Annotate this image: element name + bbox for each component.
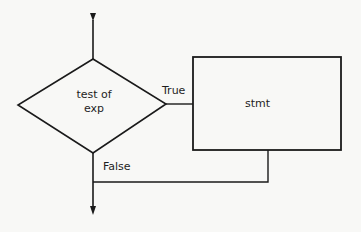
true-label: True <box>162 84 185 97</box>
decision-label: test of exp <box>58 88 130 116</box>
flowchart-canvas: test of exp True stmt False <box>0 0 361 232</box>
entry-arrow <box>90 13 96 59</box>
decision-label-line1: test of <box>58 88 130 102</box>
decision-label-line2: exp <box>58 102 130 116</box>
process-label: stmt <box>245 97 270 110</box>
flowchart-shapes <box>0 0 361 232</box>
exit-arrow <box>90 153 96 215</box>
false-label: False <box>103 160 131 173</box>
